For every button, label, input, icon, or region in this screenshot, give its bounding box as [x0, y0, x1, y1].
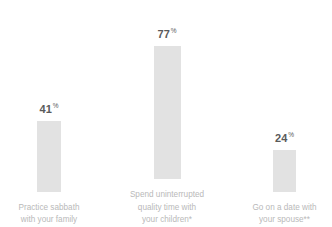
category-label-1-line-0: Spend uninterrupted	[130, 189, 204, 202]
chart-column-0: 41% Practice sabbath with your family	[0, 0, 98, 227]
bar-stack-0: 41%	[0, 22, 98, 192]
category-label-2-line-1: your spouse**	[252, 214, 316, 227]
bar-0	[37, 121, 61, 192]
chart-column-2: 24% Go on a date with your spouse**	[237, 0, 332, 227]
category-label-0-line-0: Practice sabbath	[19, 202, 80, 215]
bar-value-0: 41	[40, 103, 53, 115]
bar-value-2: 24	[275, 132, 288, 144]
category-label-0-line-1: with your family	[19, 214, 80, 227]
bar-2	[273, 150, 296, 192]
bar-value-label-2: 24%	[275, 132, 294, 144]
percent-symbol-0: %	[53, 102, 59, 109]
category-label-1: Spend uninterrupted quality time with yo…	[130, 189, 204, 227]
chart-column-1: 77% Spend uninterrupted quality time wit…	[113, 0, 221, 227]
category-label-2: Go on a date with your spouse**	[252, 202, 316, 227]
category-label-2-line-0: Go on a date with	[252, 202, 316, 215]
bar-chart: 41% Practice sabbath with your family 77…	[0, 0, 332, 227]
bar-value-label-0: 41%	[40, 103, 59, 115]
bar-value-1: 77	[158, 28, 171, 40]
category-label-0: Practice sabbath with your family	[19, 202, 80, 227]
percent-symbol-2: %	[288, 131, 294, 138]
bar-stack-2: 24%	[237, 22, 332, 192]
percent-symbol-1: %	[171, 27, 177, 34]
bar-stack-1: 77%	[113, 9, 221, 179]
bar-value-label-1: 77%	[158, 28, 177, 40]
category-label-1-line-2: your children*	[130, 214, 204, 227]
category-label-1-line-1: quality time with	[130, 202, 204, 215]
bar-1	[154, 46, 181, 179]
